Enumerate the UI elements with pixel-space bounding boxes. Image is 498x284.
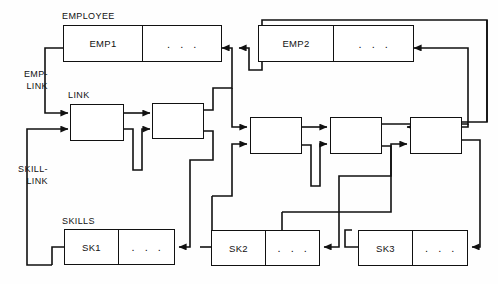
caption-employee: EMPLOYEE (62, 11, 115, 21)
sk3-data-cell: . . . (413, 231, 467, 265)
caption-link: LINK (68, 90, 90, 100)
linked-list-diagram: EMPLOYEE LINK SKILLS EMP- LINK SKILL- LI… (0, 0, 498, 284)
sk3-name-cell: SK3 (359, 231, 413, 265)
link-record-5 (410, 117, 462, 154)
link-record-4 (330, 117, 382, 154)
label-emp-link-line1: EMP- (0, 68, 48, 80)
employee-record-emp1: EMP1 . . . (63, 25, 222, 62)
emp2-name-cell: EMP2 (259, 26, 334, 61)
link-record-3 (250, 117, 302, 154)
label-skill-link-line1: SKILL- (0, 163, 48, 175)
wire-into-link5-lower (282, 144, 407, 212)
employee-record-emp2: EMP2 . . . (258, 25, 414, 62)
sk1-data-cell: . . . (119, 230, 174, 264)
wire-skill-link-head (27, 129, 68, 265)
sk2-name-cell: SK2 (212, 231, 266, 265)
link-record-2 (152, 103, 204, 139)
emp1-data-cell: . . . (143, 26, 221, 61)
skill-record-sk2: SK2 . . . (211, 230, 320, 266)
skill-record-sk3: SK3 . . . (358, 230, 468, 266)
wire-link1-lower (124, 129, 150, 170)
skill-record-sk1: SK1 . . . (64, 229, 175, 265)
wire-link3-lower (302, 144, 327, 186)
label-skill-link-line2: LINK (0, 175, 48, 187)
caption-skills: SKILLS (62, 216, 95, 226)
wire-sk1-left-stub (52, 247, 64, 265)
sk1-name-cell: SK1 (65, 230, 119, 264)
wire-sk3-left-stub (345, 230, 358, 247)
label-skill-link: SKILL- LINK (0, 163, 48, 187)
link-record-1 (70, 104, 124, 141)
wire-link2-to-sk1 (179, 131, 213, 247)
sk2-data-cell: . . . (266, 231, 319, 265)
emp1-name-cell: EMP1 (64, 26, 143, 61)
wire-into-link3-upper (232, 88, 247, 127)
label-emp-link: EMP- LINK (0, 68, 48, 92)
emp2-data-cell: . . . (334, 26, 413, 61)
wire-into-link3-lower (212, 144, 247, 196)
label-emp-link-line2: LINK (0, 80, 48, 92)
